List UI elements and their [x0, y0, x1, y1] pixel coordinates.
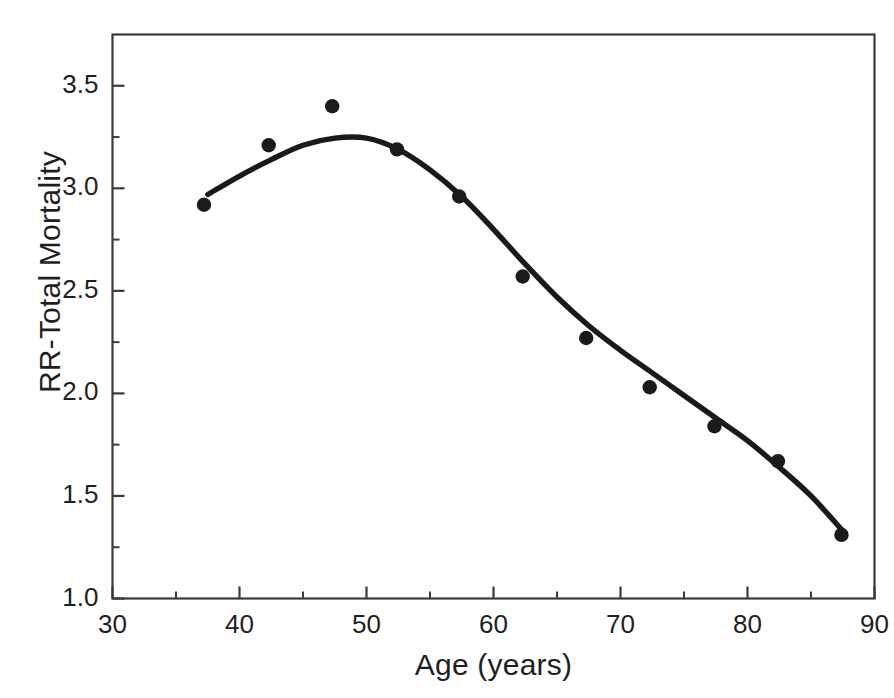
y-axis-title: RR-Total Mortality: [33, 72, 67, 472]
data-point: [834, 528, 848, 542]
x-tick-label: 70: [581, 609, 661, 640]
y-tick-label: 1.5: [9, 479, 99, 510]
chart-figure: 1.01.52.02.53.03.5 30405060708090 RR-Tot…: [0, 0, 894, 698]
data-point: [643, 380, 657, 394]
x-tick-label: 80: [708, 609, 788, 640]
data-point: [325, 99, 339, 113]
x-tick-label: 40: [200, 609, 280, 640]
x-tick-label: 60: [454, 609, 534, 640]
data-point: [197, 198, 211, 212]
plot-frame: [113, 35, 875, 599]
x-tick-label: 90: [835, 609, 894, 640]
data-point: [262, 138, 276, 152]
x-tick-label: 50: [327, 609, 407, 640]
data-point: [579, 331, 593, 345]
data-point: [516, 269, 530, 283]
data-point: [452, 189, 466, 203]
data-point: [771, 454, 785, 468]
chart-plot-area: [0, 0, 894, 698]
data-point: [390, 142, 404, 156]
data-point: [707, 419, 721, 433]
x-axis-title: Age (years): [112, 648, 875, 682]
x-tick-label: 30: [73, 609, 153, 640]
